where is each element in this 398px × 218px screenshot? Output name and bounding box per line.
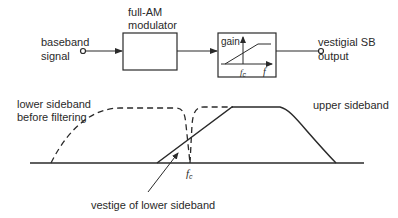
filter-gain-label: gain [221, 36, 240, 47]
output-label-1: vestigial SB [318, 36, 375, 48]
vsb-diagram: baseband signal full-AM modulator gain f… [0, 0, 398, 218]
upper-sideband-unfiltered-curve [190, 107, 233, 163]
filter-block: gain fc f [218, 33, 276, 78]
input-label-1: baseband [41, 36, 89, 48]
modulator-block: full-AM modulator [123, 6, 217, 70]
vestige-label: vestige of lower sideband [91, 199, 215, 211]
input-label-2: signal [41, 50, 70, 62]
spectrum-fc-label: fc [186, 167, 193, 180]
modulator-label-2: modulator [128, 19, 177, 31]
output-label-2: output [318, 50, 349, 62]
input-terminal-icon [81, 49, 86, 54]
modulator-label-1: full-AM [128, 6, 162, 18]
lower-sideband-label-1: lower sideband [17, 98, 91, 110]
modulator-box [123, 33, 177, 70]
output-terminal: vestigial SB output [276, 36, 375, 62]
lower-sideband-label-2: before filtering [17, 111, 87, 123]
input-terminal: baseband signal [41, 36, 122, 62]
upper-sideband-label: upper sideband [313, 99, 389, 111]
spectrum: lower sideband before filtering upper si… [17, 98, 389, 211]
